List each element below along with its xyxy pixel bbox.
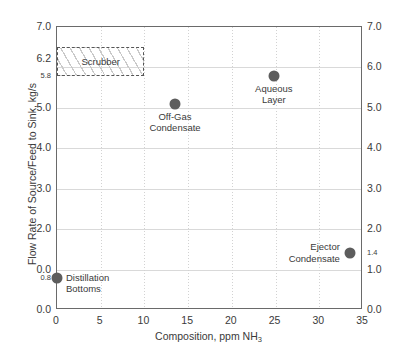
y-axis-tick-label-right: 4.0 bbox=[367, 141, 382, 153]
y-axis-tick-label-right: 6.0 bbox=[367, 60, 382, 72]
y-axis-tick-label-left: 3.0 bbox=[17, 182, 51, 194]
y-axis-tick-label-left: 7.0 bbox=[17, 20, 51, 32]
y-axis-tick-label-left: 4.0 bbox=[17, 141, 51, 153]
gridline-horizontal bbox=[57, 148, 361, 149]
y-axis-tick-label-right: 7.0 bbox=[367, 20, 382, 32]
y-axis-tick-label-right: 5.0 bbox=[367, 101, 382, 113]
data-point-label: Off-Gas Condensate bbox=[149, 111, 200, 134]
y-axis-tick-label-right: 1.4 bbox=[367, 248, 377, 257]
y-axis-tick-label-left: 6.2 bbox=[17, 52, 51, 64]
gridline-vertical bbox=[319, 27, 320, 308]
x-axis-tick-label: 10 bbox=[138, 314, 150, 326]
y-axis-tick-label-right: 0.0 bbox=[367, 303, 382, 315]
y-axis-tick-label-left: 5.0 bbox=[17, 101, 51, 113]
y-axis-title: Flow Rate of Source/Feed to Sink, kg/s bbox=[26, 54, 38, 294]
scatter-chart: ScrubberOff-Gas CondensateAqueous LayerE… bbox=[0, 0, 417, 353]
y-axis-tick-label-left: 5.8 bbox=[17, 70, 51, 79]
x-axis-tick-label: 35 bbox=[356, 314, 368, 326]
x-axis-tick-label: 5 bbox=[97, 314, 103, 326]
gridline-vertical bbox=[232, 27, 233, 308]
data-point-label: Aqueous Layer bbox=[255, 83, 293, 106]
gridline-horizontal bbox=[57, 108, 361, 109]
data-point[interactable] bbox=[268, 70, 279, 81]
y-axis-tick-label-left: 0.8 bbox=[17, 272, 51, 281]
x-axis-tick-label: 0 bbox=[53, 314, 59, 326]
gridline-vertical bbox=[144, 27, 145, 308]
y-axis-tick-label-left: 2.0 bbox=[17, 222, 51, 234]
y-axis-tick-label-right: 3.0 bbox=[367, 182, 382, 194]
data-point[interactable] bbox=[344, 248, 355, 259]
gridline-horizontal bbox=[57, 270, 361, 271]
gridline-horizontal bbox=[57, 229, 361, 230]
y-axis-tick-label-right: 1.0 bbox=[367, 263, 382, 275]
plot-area: ScrubberOff-Gas CondensateAqueous LayerE… bbox=[56, 26, 362, 309]
x-axis-tick-label: 20 bbox=[225, 314, 237, 326]
x-axis-tick-label: 25 bbox=[269, 314, 281, 326]
data-point-label: Ejector Condensate bbox=[289, 241, 340, 264]
x-axis-title-text: Composition, ppm NH bbox=[155, 330, 258, 342]
region-scrubber-label: Scrubber bbox=[58, 56, 143, 67]
region-scrubber: Scrubber bbox=[57, 47, 144, 75]
x-axis-title-subscript: 3 bbox=[258, 335, 262, 344]
x-axis-tick-label: 15 bbox=[181, 314, 193, 326]
data-point-label: Distillation Bottoms bbox=[66, 272, 109, 295]
data-point[interactable] bbox=[52, 272, 63, 283]
gridline-vertical bbox=[188, 27, 189, 308]
gridline-horizontal bbox=[57, 189, 361, 190]
gridline-vertical bbox=[276, 27, 277, 308]
y-axis-tick-label-right: 2.0 bbox=[367, 222, 382, 234]
x-axis-tick-label: 30 bbox=[312, 314, 324, 326]
y-axis-tick-label-left: 0.0 bbox=[17, 303, 51, 315]
data-point[interactable] bbox=[170, 98, 181, 109]
x-axis-title: Composition, ppm NH3 bbox=[0, 330, 417, 344]
